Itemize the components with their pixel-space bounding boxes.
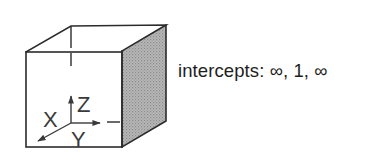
- intercepts-caption: intercepts: ∞, 1, ∞: [178, 60, 328, 82]
- x-axis-label: X: [43, 107, 58, 132]
- shaded-plane-face: [122, 25, 166, 147]
- y-axis-label: Y: [71, 127, 86, 152]
- z-axis-label: Z: [77, 92, 90, 117]
